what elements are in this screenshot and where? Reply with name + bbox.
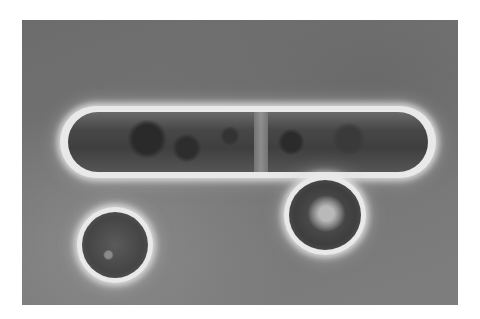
round-cell-left xyxy=(82,212,148,278)
division-septum xyxy=(254,112,268,172)
oval-cell-right xyxy=(289,180,361,250)
image-description: Phase-contrast micrograph of cells on a … xyxy=(22,20,23,21)
micrograph-image: Phase-contrast micrograph of cells on a … xyxy=(22,20,458,305)
dividing-rod-cell xyxy=(68,112,428,172)
